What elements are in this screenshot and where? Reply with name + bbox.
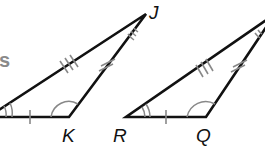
triangle-left [0,14,146,124]
triangle-right [126,14,265,124]
arc-R-2 [146,104,150,117]
vertex-label-Q: Q [196,126,211,145]
tick-long-left [60,55,78,73]
vertex-label-J: J [149,3,159,22]
arc-double-left-1 [4,106,6,117]
arc-R-1 [142,107,145,117]
congruent-triangles-figure [0,0,265,152]
vertex-label-R: R [113,126,127,145]
arc-double-left-2 [10,103,12,117]
vertex-label-K: K [62,126,75,145]
fragment-text-s: s [0,50,10,70]
